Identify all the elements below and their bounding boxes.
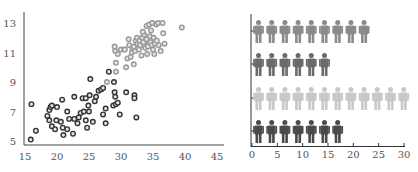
pictograph-row-4 bbox=[253, 120, 343, 143]
x-tick-label: 40 bbox=[179, 151, 192, 162]
scatter-point-light bbox=[162, 41, 167, 46]
scatter-point-dark bbox=[65, 109, 70, 114]
scatter-point-light bbox=[105, 80, 110, 85]
scatter-point-dark bbox=[103, 106, 108, 111]
x-tick-label: 20 bbox=[51, 151, 64, 162]
scatter-point-dark bbox=[103, 121, 108, 126]
scatter-point-dark bbox=[86, 103, 91, 108]
scatter-point-dark bbox=[59, 120, 64, 125]
scatter-point-dark bbox=[72, 94, 77, 99]
person-icon bbox=[266, 53, 277, 76]
scatter-point-dark bbox=[60, 97, 65, 102]
person-icon bbox=[280, 87, 291, 110]
person-icon bbox=[319, 87, 330, 110]
scatter-point-light bbox=[132, 62, 137, 67]
person-icon bbox=[306, 20, 317, 43]
scatter-point-dark bbox=[47, 118, 52, 123]
scatter-point-dark bbox=[82, 109, 87, 114]
y-tick-label: 11 bbox=[3, 48, 16, 59]
person-icon bbox=[332, 87, 343, 110]
scatter-point-light bbox=[123, 47, 128, 52]
scatter-point-light bbox=[124, 65, 129, 70]
y-tick-label: 7 bbox=[10, 107, 16, 118]
scatter-point-dark bbox=[116, 100, 121, 105]
scatter-point-dark bbox=[84, 118, 89, 123]
scatter-point-light bbox=[126, 37, 131, 42]
person-icon bbox=[306, 87, 317, 110]
scatter-point-dark bbox=[85, 125, 90, 130]
x-tick-label: 10 bbox=[296, 149, 309, 160]
person-icon bbox=[359, 87, 370, 110]
scatter-point-light bbox=[114, 69, 119, 74]
person-icon bbox=[306, 53, 317, 76]
scatter-point-light bbox=[132, 44, 137, 49]
scatter-points bbox=[28, 21, 184, 142]
x-tick-label: 25 bbox=[372, 149, 385, 160]
scatter-axes: 579111315202530354045 bbox=[3, 12, 224, 162]
scatter-point-dark bbox=[94, 94, 99, 99]
person-icon bbox=[346, 20, 357, 43]
x-tick-label: 45 bbox=[211, 151, 224, 162]
pictograph-row-2 bbox=[253, 53, 330, 76]
pictograph-row-3 bbox=[253, 87, 409, 110]
scatter-point-dark bbox=[75, 121, 80, 126]
person-icon bbox=[319, 53, 330, 76]
scatter-point-light bbox=[161, 31, 166, 36]
scatter-point-light bbox=[139, 53, 144, 58]
scatter-point-dark bbox=[61, 133, 66, 138]
scatter-point-dark bbox=[55, 105, 60, 110]
scatter-point-dark bbox=[88, 77, 93, 82]
x-tick-label: 35 bbox=[147, 151, 160, 162]
y-tick-label: 5 bbox=[10, 136, 16, 147]
scatter-point-light bbox=[145, 52, 150, 57]
scatter-point-dark bbox=[107, 69, 112, 74]
scatter-point-light bbox=[149, 28, 154, 33]
y-tick-label: 13 bbox=[3, 18, 16, 29]
scatter-point-dark bbox=[101, 86, 106, 91]
person-icon bbox=[306, 120, 317, 143]
person-icon bbox=[280, 53, 291, 76]
scatter-point-light bbox=[180, 25, 185, 30]
scatter-point-dark bbox=[87, 93, 92, 98]
scatter-point-dark bbox=[112, 80, 117, 85]
scatter-point-dark bbox=[101, 112, 106, 117]
person-icon bbox=[319, 20, 330, 43]
scatter-point-light bbox=[152, 52, 157, 57]
person-icon bbox=[398, 87, 409, 110]
person-icon bbox=[253, 53, 264, 76]
scatter-point-dark bbox=[113, 94, 118, 99]
scatter-point-dark bbox=[34, 128, 39, 133]
scatter-point-dark bbox=[134, 115, 139, 120]
scatter-point-dark bbox=[117, 112, 122, 117]
scatter-point-dark bbox=[67, 117, 72, 122]
pictograph-axes: 051015202530 bbox=[249, 14, 411, 160]
person-icon bbox=[280, 120, 291, 143]
x-tick-label: 0 bbox=[249, 149, 255, 160]
person-icon bbox=[293, 120, 304, 143]
person-icon bbox=[253, 120, 264, 143]
scatter-point-dark bbox=[29, 102, 34, 107]
scatter-point-dark bbox=[65, 127, 70, 132]
x-tick-label: 30 bbox=[115, 151, 128, 162]
scatter-point-dark bbox=[50, 103, 55, 108]
scatter-point-dark bbox=[124, 90, 129, 95]
scatter-point-light bbox=[146, 44, 151, 49]
scatter-chart: 579111315202530354045 bbox=[0, 0, 230, 172]
scatter-point-light bbox=[156, 43, 161, 48]
scatter-point-dark bbox=[28, 137, 33, 142]
scatter-point-light bbox=[116, 52, 121, 57]
person-icon bbox=[266, 120, 277, 143]
x-tick-label: 15 bbox=[19, 151, 32, 162]
person-icon bbox=[319, 120, 330, 143]
scatter-point-dark bbox=[71, 131, 76, 136]
person-icon bbox=[346, 87, 357, 110]
person-icon bbox=[253, 87, 264, 110]
x-tick-label: 15 bbox=[322, 149, 335, 160]
person-icon bbox=[385, 87, 396, 110]
scatter-point-light bbox=[158, 49, 163, 54]
x-tick-label: 25 bbox=[83, 151, 96, 162]
scatter-point-dark bbox=[91, 120, 96, 125]
scatter-point-dark bbox=[132, 96, 137, 101]
scatter-point-dark bbox=[87, 109, 92, 114]
scatter-point-light bbox=[140, 30, 145, 35]
